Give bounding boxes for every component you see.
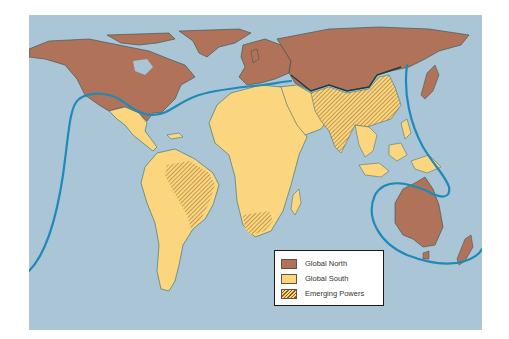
region-borneo: [389, 143, 407, 161]
legend-item-global-south: Global South: [281, 271, 377, 286]
map-legend: Global North Global South Emerging Power…: [274, 250, 384, 306]
swatch-emerging-powers: [281, 289, 297, 299]
region-arctic-islands: [107, 33, 175, 45]
region-madagascar: [291, 189, 301, 215]
swatch-global-south: [281, 274, 297, 284]
region-japan: [421, 65, 439, 99]
legend-item-emerging-powers: Emerging Powers: [281, 286, 377, 301]
legend-item-global-north: Global North: [281, 256, 377, 271]
region-indonesia: [359, 163, 389, 177]
region-new-guinea: [411, 155, 441, 173]
world-map: [29, 15, 482, 330]
legend-label: Emerging Powers: [305, 289, 364, 298]
region-southeast-asia: [355, 125, 377, 157]
map-canvas: [29, 15, 482, 330]
region-greenland: [179, 29, 251, 57]
legend-label: Global North: [305, 259, 347, 268]
swatch-global-north: [281, 259, 297, 269]
region-philippines: [401, 119, 411, 139]
legend-label: Global South: [305, 274, 348, 283]
region-tasmania: [423, 251, 429, 259]
region-caribbean: [167, 133, 183, 139]
